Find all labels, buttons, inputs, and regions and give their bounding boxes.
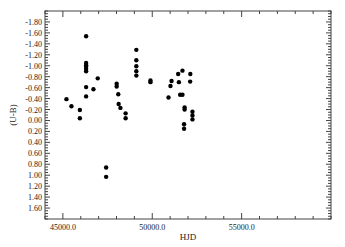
data-point bbox=[116, 92, 120, 96]
data-point bbox=[78, 116, 82, 120]
data-point bbox=[182, 126, 186, 130]
y-tick-label: -0.60 bbox=[25, 84, 42, 93]
data-point bbox=[96, 76, 100, 80]
y-tick-label: 0.00 bbox=[28, 116, 42, 125]
scatter-chart: 45000.050000.055000.0 -1.80-1.60-1.40-1.… bbox=[0, 0, 345, 247]
y-tick-label: 0.20 bbox=[28, 127, 42, 136]
y-tick-label: 1.00 bbox=[28, 171, 42, 180]
y-tick-label: 0.40 bbox=[28, 138, 42, 147]
data-point bbox=[104, 165, 108, 169]
x-axis-ticks bbox=[45, 11, 331, 219]
data-point bbox=[84, 94, 88, 98]
x-axis-tick-labels: 45000.050000.055000.0 bbox=[50, 223, 255, 232]
data-point bbox=[84, 85, 88, 89]
y-tick-label: -1.80 bbox=[25, 18, 42, 27]
y-tick-label: -0.80 bbox=[25, 73, 42, 82]
data-point bbox=[134, 69, 138, 73]
x-tick-label: 55000.0 bbox=[229, 223, 255, 232]
data-point bbox=[148, 80, 152, 84]
x-axis-title: HJD bbox=[180, 232, 197, 242]
y-tick-label: -1.60 bbox=[25, 29, 42, 38]
data-point bbox=[182, 122, 186, 126]
y-tick-label: 0.60 bbox=[28, 149, 42, 158]
y-tick-label: 1.20 bbox=[28, 182, 42, 191]
data-point bbox=[64, 97, 68, 101]
y-tick-label: -1.40 bbox=[25, 40, 42, 49]
data-point bbox=[180, 93, 184, 97]
data-point bbox=[114, 84, 118, 88]
data-point bbox=[177, 80, 181, 84]
data-point bbox=[69, 104, 73, 108]
data-point bbox=[84, 69, 88, 73]
plot-frame bbox=[45, 11, 331, 219]
data-point bbox=[180, 68, 184, 72]
data-point bbox=[84, 34, 88, 38]
data-point bbox=[190, 110, 194, 114]
data-point bbox=[176, 72, 180, 76]
data-point bbox=[104, 175, 108, 179]
data-point bbox=[134, 73, 138, 77]
y-tick-label: 0.80 bbox=[28, 160, 42, 169]
data-point bbox=[123, 116, 127, 120]
y-tick-label: -0.20 bbox=[25, 106, 42, 115]
data-point bbox=[166, 95, 170, 99]
y-tick-label: -0.40 bbox=[25, 95, 42, 104]
data-point bbox=[78, 108, 82, 112]
data-points bbox=[64, 34, 194, 179]
data-point bbox=[168, 84, 172, 88]
data-point bbox=[188, 72, 192, 76]
y-axis-ticks bbox=[45, 11, 331, 219]
x-tick-label: 45000.0 bbox=[50, 223, 76, 232]
data-point bbox=[118, 106, 122, 110]
data-point bbox=[134, 58, 138, 62]
y-tick-label: -1.20 bbox=[25, 51, 42, 60]
data-point bbox=[190, 117, 194, 121]
data-point bbox=[134, 48, 138, 52]
data-point bbox=[91, 87, 95, 91]
data-point bbox=[116, 102, 120, 106]
data-point bbox=[123, 111, 127, 115]
data-point bbox=[188, 79, 192, 83]
data-point bbox=[169, 79, 173, 83]
y-tick-label: 1.40 bbox=[28, 193, 42, 202]
y-axis-title: (U-B) bbox=[8, 104, 18, 126]
y-tick-label: 1.60 bbox=[28, 204, 42, 213]
y-tick-label: -1.00 bbox=[25, 62, 42, 71]
data-point bbox=[182, 107, 186, 111]
data-point bbox=[134, 64, 138, 68]
y-axis-tick-labels: -1.80-1.60-1.40-1.20-1.00-0.80-0.60-0.40… bbox=[25, 18, 42, 213]
x-tick-label: 50000.0 bbox=[139, 223, 165, 232]
data-point bbox=[190, 113, 194, 117]
